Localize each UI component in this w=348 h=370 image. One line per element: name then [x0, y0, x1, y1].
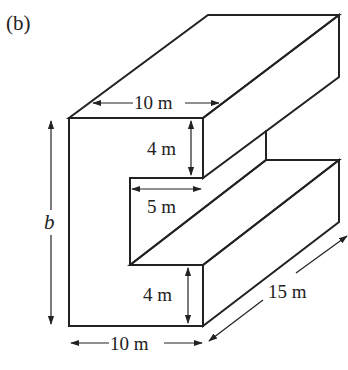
dimension-notch-depth: 5 m — [132, 189, 201, 217]
front-cross-section — [69, 118, 203, 326]
bottom-arm-thickness-label: 4 m — [143, 284, 172, 305]
dimension-bottom-arm-thickness: 4 m — [143, 268, 188, 323]
dimension-length: 15 m — [209, 236, 347, 341]
top-arm-thickness-label: 4 m — [147, 138, 176, 159]
height-label: b — [44, 210, 55, 234]
dimension-bottom-width: 10 m — [71, 333, 202, 354]
dimension-top-width: 10 m — [93, 92, 219, 113]
dimension-height: b — [44, 121, 55, 324]
bottom-width-label: 10 m — [110, 333, 149, 354]
length-label: 15 m — [268, 281, 307, 302]
top-arm-right-face — [203, 15, 339, 178]
notch-depth-label: 5 m — [147, 196, 176, 217]
top-width-label: 10 m — [134, 92, 173, 113]
c-channel-diagram: (b) 10 m 4 m 5 m b 4 m 10 m 15 m — [0, 0, 348, 370]
dimension-top-arm-thickness: 4 m — [147, 121, 191, 175]
panel-label: (b) — [6, 11, 31, 35]
